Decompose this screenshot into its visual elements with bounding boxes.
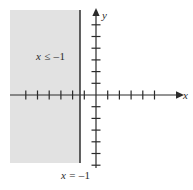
boundary-label-relation: = –1 (66, 169, 90, 181)
inequality-graph-figure: x ≤ –1 x = –1 x y (0, 0, 193, 190)
coordinate-plane-svg (0, 0, 193, 190)
region-inequality-label: x ≤ –1 (36, 50, 65, 62)
region-label-relation: ≤ –1 (41, 50, 65, 62)
x-axis-label: x (183, 89, 188, 101)
y-axis-arrow-icon (92, 8, 99, 16)
y-axis-label: y (102, 9, 107, 21)
boundary-line-label: x = –1 (61, 169, 90, 181)
shaded-region-x-le-neg1 (10, 10, 80, 163)
